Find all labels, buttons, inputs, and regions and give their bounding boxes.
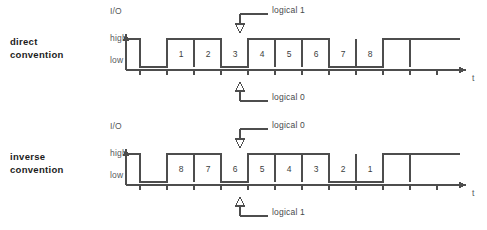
time-ticks xyxy=(140,185,437,190)
bit-label: 8 xyxy=(362,49,378,59)
bit-label: 3 xyxy=(227,49,243,59)
waveform-inverse xyxy=(0,115,487,230)
bit-label: 4 xyxy=(254,49,270,59)
bit-label: 6 xyxy=(227,164,243,174)
bit-label: 2 xyxy=(200,49,216,59)
axis-arrow-right xyxy=(459,67,467,74)
bit-label: 4 xyxy=(281,164,297,174)
bit-label: 6 xyxy=(308,49,324,59)
leader-logical-high xyxy=(235,129,268,148)
leader-logical-low xyxy=(235,82,268,101)
axis-arrow-up xyxy=(123,33,130,41)
time-ticks xyxy=(140,70,437,75)
panel-inverse-convention: inverse convention I/O high low t logica… xyxy=(0,115,487,230)
bit-label: 7 xyxy=(200,164,216,174)
bit-label: 3 xyxy=(308,164,324,174)
axis-arrow-right xyxy=(459,182,467,189)
waveform-direct xyxy=(0,0,487,115)
leader-logical-low xyxy=(235,197,268,216)
bit-label: 5 xyxy=(281,49,297,59)
timing-diagram: direct convention I/O high low t logical… xyxy=(0,0,487,230)
bit-label: 1 xyxy=(173,49,189,59)
bit-label: 1 xyxy=(362,164,378,174)
bit-label: 2 xyxy=(335,164,351,174)
bit-label: 5 xyxy=(254,164,270,174)
panel-direct-convention: direct convention I/O high low t logical… xyxy=(0,0,487,115)
bit-label: 7 xyxy=(335,49,351,59)
axis-arrow-up xyxy=(123,148,130,156)
leader-logical-high xyxy=(235,14,268,33)
bit-label: 8 xyxy=(173,164,189,174)
